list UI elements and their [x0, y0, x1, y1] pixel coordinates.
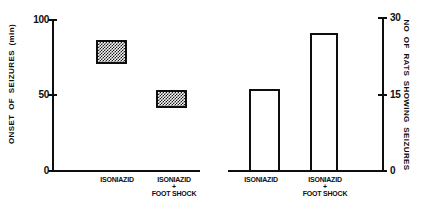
left-tick-label-0: 0 — [26, 166, 49, 176]
label-line-foot-shock: FOOT SHOCK — [293, 190, 357, 197]
right-tick-15 — [378, 94, 387, 96]
bar-isoniazid-foot-shock — [310, 33, 338, 172]
right-tick-0 — [378, 170, 387, 172]
seizure-figure: ONSET OF SEIZURES (min) 100 50 0 ISONIAZ… — [0, 0, 434, 210]
label-line: ISONIAZID — [293, 176, 357, 183]
left-y-axis-line — [52, 20, 54, 172]
right-category-label-isoniazid-foot-shock: ISONIAZID + FOOT SHOCK — [293, 176, 357, 197]
left-category-label-isoniazid-foot-shock: ISONIAZID + FOOT SHOCK — [142, 176, 206, 197]
left-tick-50 — [48, 94, 57, 96]
label-line: ISONIAZID — [229, 176, 293, 183]
label-line-foot-shock: FOOT SHOCK — [142, 190, 206, 197]
right-tick-30 — [378, 17, 387, 19]
left-tick-label-100: 100 — [26, 15, 49, 25]
label-line: ISONIAZID — [142, 176, 206, 183]
left-x-axis-line — [52, 170, 200, 172]
label-line-plus: + — [142, 183, 206, 190]
right-tick-label-30: 30 — [390, 13, 401, 23]
range-box-isoniazid — [96, 40, 127, 64]
left-y-axis-title: ONSET OF SEIZURES (min) — [7, 24, 16, 144]
right-tick-label-15: 15 — [390, 90, 401, 100]
left-category-label-isoniazid: ISONIAZID — [85, 176, 149, 183]
left-tick-100 — [48, 19, 57, 21]
range-box-isoniazid-foot-shock — [156, 90, 187, 108]
right-category-label-isoniazid: ISONIAZID — [229, 176, 293, 183]
right-y-axis-title: NO OF RATS SHOWING SEIZURES — [402, 19, 411, 170]
bar-isoniazid — [249, 89, 280, 172]
label-line: ISONIAZID — [85, 176, 149, 183]
right-tick-label-0: 0 — [390, 166, 395, 176]
label-line-plus: + — [293, 183, 357, 190]
left-tick-label-50: 50 — [26, 90, 49, 100]
